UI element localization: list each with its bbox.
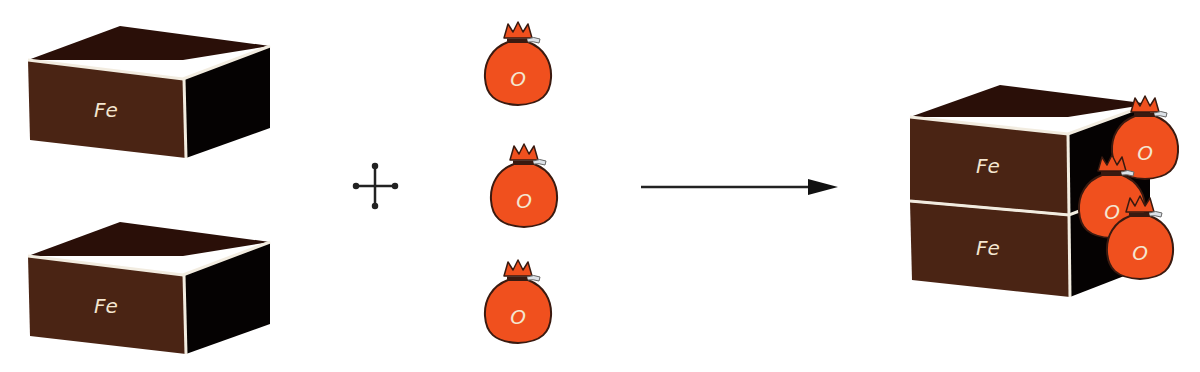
o-label: O <box>1132 241 1148 265</box>
iron-oxide-product: Fe Fe O O O <box>910 85 1178 297</box>
iron-block-reactant-1: Fe <box>28 26 270 158</box>
o-label: O <box>510 305 526 329</box>
o-label: O <box>1137 141 1153 165</box>
fe-label: Fe <box>976 236 1000 260</box>
o-label: O <box>510 67 526 91</box>
fe-label: Fe <box>94 98 118 122</box>
oxygen-bag-reactant-1: O <box>485 22 551 105</box>
fe-label: Fe <box>976 154 1000 178</box>
oxygen-bag-reactant-3: O <box>485 260 551 343</box>
o-label: O <box>516 189 532 213</box>
reaction-diagram: Fe Fe O O O <box>0 0 1200 372</box>
oxygen-bag-reactant-2: O <box>491 144 557 227</box>
plus-operator <box>354 164 397 208</box>
iron-block-reactant-2: Fe <box>28 222 270 354</box>
fe-label: Fe <box>94 294 118 318</box>
reaction-arrow-icon <box>641 179 838 195</box>
o-label: O <box>1104 200 1120 224</box>
